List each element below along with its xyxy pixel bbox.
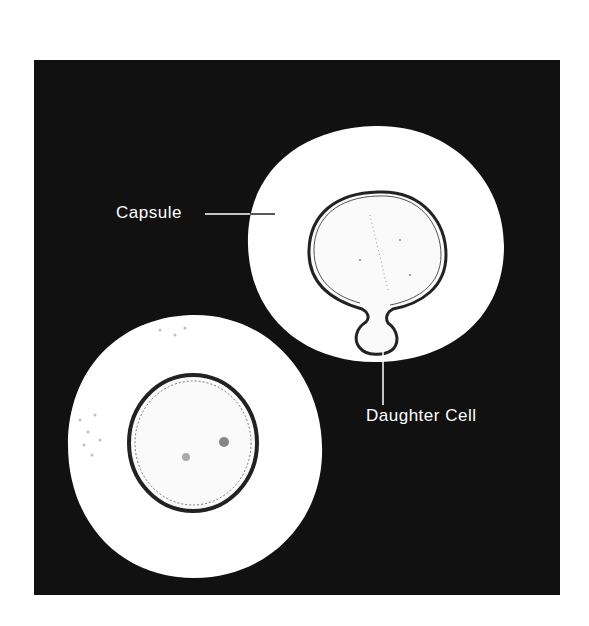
diagram-illustration — [0, 0, 589, 626]
budding-cell-group — [248, 126, 504, 362]
single-cell-group — [68, 315, 322, 578]
single-cell-wall — [129, 375, 257, 511]
daughter-cell-label: Daughter Cell — [366, 406, 476, 426]
capsule-label: Capsule — [116, 203, 182, 223]
